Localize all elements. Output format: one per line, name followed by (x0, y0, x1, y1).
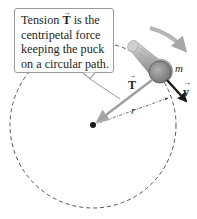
callout-pointer-cover (0, 0, 197, 219)
tension-label: →T (128, 78, 136, 93)
radius-label: r (131, 104, 135, 116)
circular-motion-diagram: Tension →T is the centripetal force keep… (0, 0, 197, 219)
mass-label: m (175, 62, 183, 74)
velocity-label: →v (183, 85, 189, 100)
